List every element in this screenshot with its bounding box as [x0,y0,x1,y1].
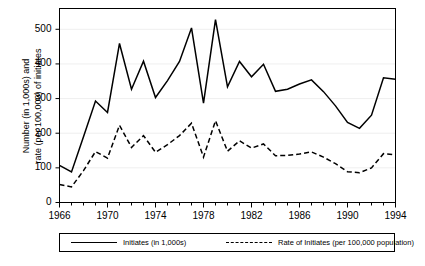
legend-label-rate: Rate of Initiates (per 100,000 populatio… [278,238,414,247]
plot-frame [60,9,396,203]
legend: Initiates (in 1,000s) Rate of Initiates … [59,233,395,252]
legend-swatch-dashed [226,238,272,248]
legend-label-initiates: Initiates (in 1,000s) [123,238,186,247]
series-line-initiates [60,20,396,172]
series-line-rate [60,121,396,187]
chart-figure: Number (in 1,000s) and rate (per 100,000… [0,0,425,266]
legend-entry-initiates: Initiates (in 1,000s) [71,234,186,251]
legend-entry-rate: Rate of Initiates (per 100,000 populatio… [226,234,414,251]
plot-area [0,0,425,266]
legend-swatch-solid [71,238,117,248]
data-series-group [60,20,396,187]
